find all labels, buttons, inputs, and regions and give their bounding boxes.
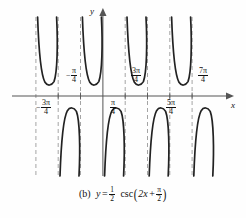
y-axis-label: y [90, 6, 94, 16]
x-axis-label: x [231, 100, 235, 110]
caption-close-paren: ) [163, 186, 167, 203]
minus-sign: − [66, 72, 71, 80]
cosecant-plot [0, 0, 246, 190]
caption-plus: + [149, 188, 155, 199]
fraction-7pi-over-4: 7π4 [198, 67, 208, 85]
caption-phase-fraction: π2 [156, 186, 162, 203]
tick-label-3pi-4: 3π4 [131, 67, 141, 85]
y-axis-arrow-icon [99, 8, 106, 16]
tick-label-7pi-4: 7π4 [198, 67, 208, 85]
tick-label-neg-pi-4: −π4 [66, 67, 77, 85]
x-axis-arrow-icon [226, 92, 234, 99]
caption-lhs: y [96, 188, 100, 199]
branch-down-left [60, 108, 80, 176]
tick-label-neg-3pi-4: −3π4 [36, 99, 51, 117]
branch-up-center [82, 17, 102, 85]
caption-row: (b) y=12 csc(2x+π2) [79, 186, 167, 203]
fraction-pi-over-4: π4 [110, 99, 116, 117]
branch-up-left-outer [38, 17, 58, 85]
caption-argument-linear: 2x [138, 188, 147, 199]
branch-up-far-right [172, 17, 192, 85]
fraction-3pi-over-4: 3π4 [41, 99, 51, 117]
fraction-5pi-over-4: 5π4 [166, 99, 176, 117]
figure-container: y x −3π4 −π4 π4 3π4 5π4 7π4 (b) y=12 csc… [0, 0, 246, 218]
caption-open-paren: ( [134, 186, 138, 203]
caption-part-label: (b) [79, 188, 91, 199]
minus-sign: − [36, 104, 41, 112]
caption-equals: = [102, 188, 108, 199]
fraction-3pi-over-4: 3π4 [131, 67, 141, 85]
figure-caption: (b) y=12 csc(2x+π2) [0, 186, 246, 203]
tick-label-pi-4: π4 [110, 99, 116, 117]
fraction-pi-over-4: π4 [71, 67, 77, 85]
branch-down-far-right [194, 108, 214, 176]
caption-coefficient-fraction: 12 [109, 186, 115, 203]
caption-function-name: csc [120, 188, 133, 199]
branch-down-right [149, 108, 169, 176]
branch-down-center [105, 108, 125, 176]
tick-label-5pi-4: 5π4 [166, 99, 176, 117]
